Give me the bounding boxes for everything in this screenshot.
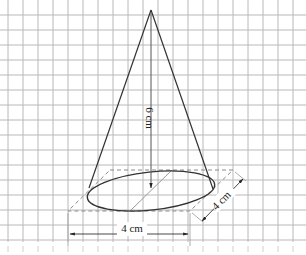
cone-figure: 6 cm 4 cm 4 cm [0,0,306,255]
height-label: 6 cm [144,107,156,129]
cone-right-side [151,10,213,189]
dim-horizontal-label: 4 cm [121,222,143,234]
dim-slanted-ext-bottom [192,213,203,222]
